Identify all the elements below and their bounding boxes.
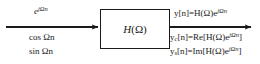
input-label-complex-exponential: ejΩn — [34, 6, 48, 16]
block-label-function: H — [123, 23, 131, 35]
system-block-label: H(Ω) — [101, 10, 169, 48]
output-label-cosine-response: yc[n]=Re[H(Ω)ejΩn] — [170, 32, 242, 43]
output-complex-exponent: jΩn — [217, 7, 227, 14]
output-sin-mid: [n]=Im[H(Ω)e — [177, 46, 229, 56]
output-cos-exponent: jΩn — [229, 31, 239, 38]
output-complex-lhs: y[n]=H(Ω)e — [174, 8, 217, 18]
input-cosine-text: cos Ωn — [29, 32, 54, 42]
input-sine-text: sin Ωn — [29, 46, 53, 56]
output-cos-mid: [n]=Re[H(Ω)e — [177, 32, 229, 42]
system-block: H(Ω) — [100, 9, 170, 49]
block-diagram-figure: H(Ω) ejΩn cos Ωn sin Ωn y[n]=H(Ω)ejΩn yc… — [0, 0, 260, 64]
input-label-sine: sin Ωn — [29, 47, 53, 56]
input-label-cosine: cos Ωn — [29, 33, 54, 42]
output-label-complex: y[n]=H(Ω)ejΩn — [174, 8, 227, 18]
output-sin-suffix: ] — [239, 46, 242, 56]
block-label-omega: Ω — [135, 23, 143, 35]
output-label-sine-response: ys[n]=Im[H(Ω)ejΩn] — [170, 46, 242, 57]
input-exp-exponent: jΩn — [38, 5, 48, 12]
output-cos-suffix: ] — [239, 32, 242, 42]
output-sin-exponent: jΩn — [229, 45, 239, 52]
block-label-close: ) — [143, 23, 147, 35]
